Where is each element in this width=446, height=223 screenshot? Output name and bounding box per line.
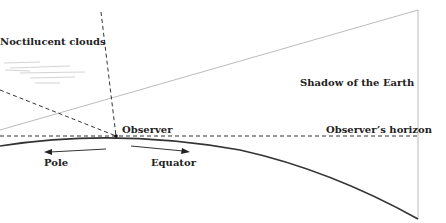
shadow-label: Shadow of the Earth [300,77,414,88]
equator-label: Equator [151,157,196,168]
arrow-left-icon [44,149,52,155]
diagram-graphics [0,0,446,223]
noctilucent-clouds-label: Noctilucent clouds [0,36,106,47]
pole-label: Pole [44,157,68,168]
arrow-right-icon [181,148,190,154]
diagram: Noctilucent clouds Shadow of the Earth O… [0,0,446,223]
observer-label: Observer [122,124,172,135]
earth-surface [0,138,418,219]
zenith-line [101,12,116,136]
shadow-upper-edge [0,10,418,130]
cloud-smudge [4,62,85,83]
observer-dot [114,134,118,138]
horizon-label: Observer’s horizon [326,124,432,135]
